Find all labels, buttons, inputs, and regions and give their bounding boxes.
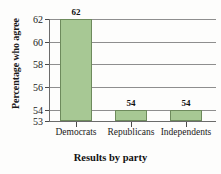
y-tick-label-53: 53 (33, 116, 43, 127)
y-axis-line (49, 19, 50, 122)
x-tick-label-independents: Independents (161, 127, 212, 137)
y-tick-label-56: 56 (33, 82, 43, 93)
y-tick-53 (45, 121, 49, 122)
bar-independents (170, 110, 202, 121)
y-tick-label-58: 58 (33, 59, 43, 70)
bar-value-independents: 54 (182, 98, 191, 108)
x-axis-title: Results by party (0, 152, 221, 163)
y-tick-62 (45, 19, 49, 20)
x-axis-line (49, 121, 216, 122)
chart-screenshot: Percentage who agree 62 60 58 56 54 53 6… (0, 0, 221, 174)
y-tick-label-60: 60 (33, 37, 43, 48)
y-tick-60 (45, 42, 49, 43)
bar-value-republicans: 54 (127, 98, 136, 108)
y-axis-title: Percentage who agree (10, 4, 21, 124)
x-tick-label-republicans: Republicans (108, 127, 155, 137)
bar-value-democrats: 62 (72, 7, 81, 17)
y-tick-54 (45, 110, 49, 111)
bar-republicans (115, 110, 147, 121)
y-tick-label-54: 54 (33, 105, 43, 116)
y-tick-56 (45, 87, 49, 88)
y-tick-58 (45, 64, 49, 65)
bar-democrats (60, 19, 92, 121)
y-tick-label-62: 62 (33, 14, 43, 25)
x-tick-label-democrats: Democrats (55, 127, 96, 137)
plot-area: 62 60 58 56 54 53 62 54 54 Democrats Rep… (49, 19, 216, 122)
